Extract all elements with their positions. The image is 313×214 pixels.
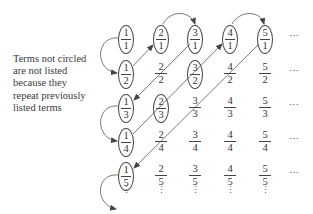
denominator: 1 [223,41,237,51]
col-5-ellipsis: ⋮ [260,188,270,192]
numerator: 3 [187,164,203,174]
numerator: 1 [119,97,133,107]
numerator: 1 [119,28,133,38]
numerator: 2 [154,97,168,107]
numerator: 4 [222,164,238,174]
fraction-3-4: 34 [187,130,203,153]
fraction-1-2: 12 [118,60,134,89]
fraction-3-1: 31 [187,25,203,54]
denominator: 1 [154,41,168,51]
denominator: 2 [188,76,202,86]
row-2-ellipsis: ⋯ [289,65,300,76]
denominator: 1 [119,41,133,51]
fraction-5-4: 54 [257,130,273,153]
arrow-1-2-to-2-1 [133,45,153,66]
denominator: 4 [153,143,169,153]
numerator: 3 [188,28,202,38]
numerator: 5 [258,28,272,38]
numerator: 1 [119,63,133,73]
col-1-ellipsis: ⋮ [121,188,131,192]
numerator: 3 [187,130,203,140]
numerator: 1 [119,131,133,141]
fraction-4-2: 42 [222,62,238,85]
fraction-2-3: 23 [153,94,169,123]
numerator: 2 [153,130,169,140]
denominator: 2 [257,75,273,85]
fraction-5-5: 55 [257,164,273,187]
arrow-1-5-continue [100,175,118,209]
col-3-ellipsis: ⋮ [190,188,200,192]
row-4-ellipsis: ⋯ [289,133,300,144]
denominator: 3 [154,110,168,120]
denominator: 2 [119,76,133,86]
arrow-4-1-to-5-1 [232,14,264,25]
numerator: 5 [257,130,273,140]
numerator: 2 [154,28,168,38]
arrow-1-1-to-1-2 [101,38,118,73]
numerator: 5 [257,62,273,72]
fraction-3-3: 33 [187,96,203,119]
fraction-1-3: 13 [118,94,134,123]
numerator: 2 [153,62,169,72]
fraction-2-5: 25 [153,164,169,187]
fraction-5-1: 51 [257,25,273,54]
arrow-1-3-to-1-4 [101,106,118,141]
fraction-2-1: 21 [153,25,169,54]
numerator: 3 [188,63,202,73]
arrow-2-1-to-3-1 [163,14,195,25]
denominator: 1 [258,41,272,51]
denominator: 2 [153,75,169,85]
numerator: 2 [153,164,169,174]
denominator: 3 [257,109,273,119]
fraction-5-2: 52 [257,62,273,85]
numerator: 4 [222,62,238,72]
denominator: 3 [222,109,238,119]
col-2-ellipsis: ⋮ [156,188,166,192]
arrow-1-4-to-4-1 [133,44,222,134]
fraction-4-1: 41 [222,25,238,54]
numerator: 4 [223,28,237,38]
fraction-4-4: 44 [222,130,238,153]
fraction-4-5: 45 [222,164,238,187]
fraction-4-3: 43 [222,96,238,119]
numerator: 5 [257,96,273,106]
fraction-2-2: 22 [153,62,169,85]
fraction-3-2: 32 [187,60,203,89]
row-5-ellipsis: ⋯ [289,167,300,178]
numerator: 5 [257,164,273,174]
denominator: 2 [222,75,238,85]
fraction-3-5: 35 [187,164,203,187]
denominator: 4 [257,143,273,153]
numerator: 1 [119,165,133,175]
numerator: 3 [187,96,203,106]
fraction-1-1: 11 [118,25,134,54]
fraction-2-4: 24 [153,130,169,153]
fraction-1-4: 14 [118,128,134,157]
row-1-ellipsis: ⋯ [289,30,300,41]
denominator: 4 [222,143,238,153]
denominator: 4 [187,143,203,153]
col-4-ellipsis: ⋮ [225,188,235,192]
denominator: 3 [119,110,133,120]
row-3-ellipsis: ⋯ [289,99,300,110]
fraction-5-3: 53 [257,96,273,119]
denominator: 4 [119,144,133,154]
denominator: 3 [187,109,203,119]
denominator: 1 [188,41,202,51]
numerator: 4 [222,96,238,106]
numerator: 4 [222,130,238,140]
